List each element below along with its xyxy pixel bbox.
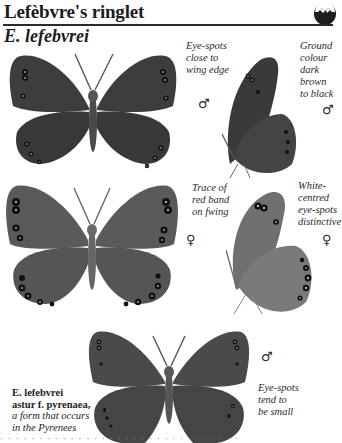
note-white-centred-eye-spots: White- centred eye-spots distinctive	[298, 180, 341, 228]
butterfly-form-pyrenaea-illustration	[85, 326, 253, 443]
form-caption: E. lefebvrei astur f. pyrenaea, a form t…	[12, 387, 90, 433]
species-name: E. lefebvrei	[4, 26, 89, 47]
male-symbol: ♂	[198, 96, 210, 111]
note-ground-colour: Ground colour dark brown to black	[300, 40, 334, 100]
butterfly-male-upperside-illustration	[5, 48, 181, 170]
form-name-line2: astur f. pyrenaea,	[12, 399, 90, 411]
form-description-line1: a form that occurs	[12, 410, 90, 422]
female-symbol: ♀	[186, 232, 196, 247]
male-symbol: ♂	[322, 102, 334, 117]
butterfly-male-underside-illustration	[220, 54, 300, 178]
note-eye-spots-small: Eye-spots tend to be small	[258, 382, 299, 418]
habitat-mountain-icon	[313, 2, 337, 26]
clipped-footer-text: · · · · · · · · · · · · · · · · · · · · …	[0, 437, 342, 443]
page-title: Lefèbvre's ringlet	[4, 1, 144, 23]
butterfly-female-upperside-illustration	[2, 180, 182, 308]
note-trace-of-red-band: Trace of red band on fwing	[192, 182, 229, 218]
male-symbol: ♂	[261, 349, 273, 364]
form-name-line1: E. lefebvrei	[12, 387, 90, 399]
form-description-line2: in the Pyrenees	[12, 422, 90, 434]
female-symbol: ♀	[322, 232, 332, 247]
